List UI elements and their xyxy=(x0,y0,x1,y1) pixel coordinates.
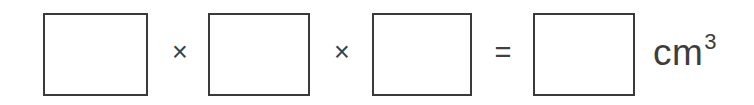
length-input[interactable] xyxy=(43,13,148,96)
unit-label: cm3 xyxy=(653,0,716,105)
volume-equation-row: × × = cm3 xyxy=(0,0,754,105)
multiply-operator-icon: × xyxy=(327,0,357,105)
unit-base-text: cm xyxy=(653,32,703,73)
volume-answer-input[interactable] xyxy=(533,13,635,96)
height-input[interactable] xyxy=(372,13,472,96)
multiply-operator-icon: × xyxy=(165,0,195,105)
width-input[interactable] xyxy=(208,13,310,96)
equals-operator-icon: = xyxy=(486,0,520,105)
unit-exponent-text: 3 xyxy=(704,29,717,54)
